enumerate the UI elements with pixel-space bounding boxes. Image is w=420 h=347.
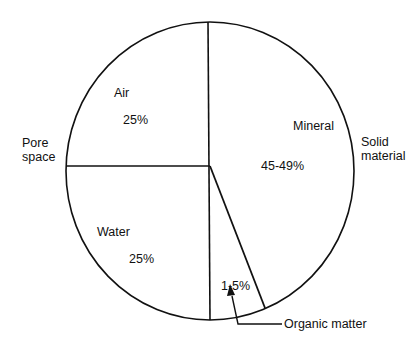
organic-label: Organic matter: [284, 317, 367, 331]
water-label: Water: [97, 225, 130, 239]
solid-material-label-line2: material: [361, 149, 405, 163]
divider-vertical: [208, 22, 210, 320]
organic-percent: 1-5%: [221, 279, 250, 293]
pore-space-label-line2: space: [22, 150, 55, 164]
solid-material-label-line1: Solid: [361, 135, 389, 149]
mineral-percent: 45-49%: [261, 159, 304, 173]
mineral-label: Mineral: [293, 119, 334, 133]
water-percent: 25%: [129, 252, 154, 266]
air-percent: 25%: [123, 113, 148, 127]
air-label: Air: [114, 86, 129, 100]
organic-pointer-line: [232, 296, 282, 324]
pie-chart: [0, 0, 420, 347]
pore-space-label-line1: Pore: [22, 136, 48, 150]
